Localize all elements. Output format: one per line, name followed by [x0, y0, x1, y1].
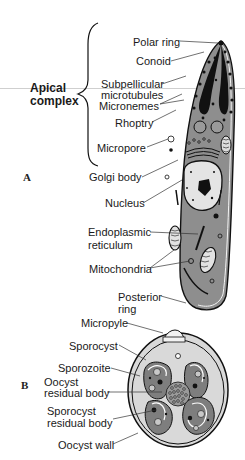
label-mitochondria: Mitochondria: [89, 263, 152, 275]
label-posterior-ring-line1: Posterior: [118, 291, 162, 303]
panel-label-b: B: [21, 379, 28, 391]
label-sporocyst: Sporocyst: [69, 340, 118, 352]
label-oocyst-wall: Oocyst wall: [58, 439, 114, 451]
label-oocyst-residual-line2: residual body: [44, 387, 109, 399]
label-micropyle: Micropyle: [81, 317, 128, 329]
label-er-line2: reticulum: [88, 239, 133, 251]
label-golgi-body: Golgi body: [89, 171, 142, 183]
apical-complex-brace: [78, 23, 98, 166]
label-sporocyst-residual-line1: Sporocyst: [47, 405, 96, 417]
apical-complex-label-line2: complex: [30, 95, 79, 108]
label-conoid: Conoid: [136, 55, 171, 67]
label-er-line1: Endoplasmic: [88, 226, 151, 238]
label-posterior-ring-line2: ring: [118, 303, 136, 315]
label-polar-ring: Polar ring: [133, 36, 180, 48]
label-sporozoite: Sporozoite: [58, 362, 111, 374]
panel-label-a: A: [23, 171, 31, 183]
label-micropore: Micropore: [97, 142, 146, 154]
apicomplexan-cell: [165, 41, 234, 310]
label-rhoptry: Rhoptry: [115, 117, 154, 129]
label-micronemes: Micronemes: [99, 100, 159, 112]
label-nucleus: Nucleus: [105, 197, 145, 209]
oocyst: [128, 330, 228, 447]
label-sporocyst-residual-line2: residual body: [47, 417, 112, 429]
